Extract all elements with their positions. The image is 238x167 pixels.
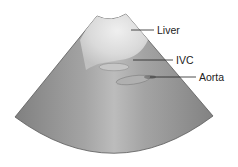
ivc-label: IVC [176, 54, 194, 66]
ultrasound-diagram: Liver IVC Aorta [0, 0, 238, 167]
aorta-label: Aorta [199, 71, 224, 83]
liver-label: Liver [157, 24, 180, 36]
ivc-vessel [99, 63, 129, 71]
